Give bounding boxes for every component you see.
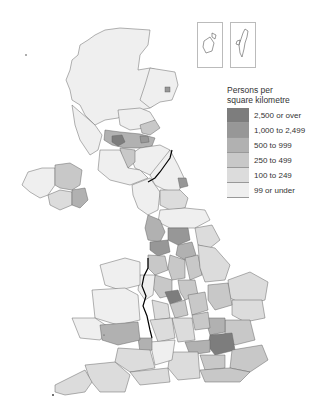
- region-mid-wales: [92, 288, 140, 325]
- legend-label: 100 to 249: [254, 171, 292, 180]
- legend-label: 500 to 999: [254, 141, 292, 150]
- region-lincolnshire: [198, 245, 230, 282]
- region-north-wales: [100, 258, 140, 290]
- legend-item: 500 to 999: [227, 138, 305, 153]
- region-aberdeen-city: [165, 87, 170, 92]
- region-tyne-wear: [178, 178, 188, 188]
- region-east-yorkshire: [195, 225, 220, 248]
- region-cambridgeshire: [208, 283, 232, 310]
- legend-swatch: [227, 108, 249, 123]
- region-edinburgh: [140, 136, 149, 143]
- region-west-yorkshire: [168, 228, 190, 245]
- region-bedfordshire: [192, 312, 210, 330]
- orkney-islands-icon: [198, 23, 222, 67]
- region-kent: [230, 345, 268, 372]
- legend-label: 99 or under: [254, 186, 295, 195]
- region-south-wales-valleys: [100, 322, 140, 345]
- legend-title: Persons per square kilometre: [227, 85, 305, 105]
- region-ni-south: [48, 190, 72, 210]
- legend-swatch: [227, 123, 249, 138]
- legend-swatch: [227, 138, 249, 153]
- region-northamptonshire: [188, 292, 208, 315]
- region-oxfordshire: [172, 318, 195, 342]
- uk-population-density-map: [0, 0, 324, 406]
- region-greater-london: [208, 333, 235, 355]
- legend-item: 1,000 to 2,499: [227, 123, 305, 138]
- region-suffolk: [232, 300, 265, 322]
- region-surrey: [200, 355, 225, 370]
- legend-item: 99 or under: [227, 183, 305, 198]
- island-dot: [25, 54, 27, 56]
- legend-swatch: [227, 183, 249, 198]
- legend-label: 250 to 499: [254, 156, 292, 165]
- legend-swatch: [227, 168, 249, 183]
- region-ni-antrim: [55, 163, 82, 190]
- region-gloucestershire: [150, 318, 175, 342]
- legend-swatch: [227, 153, 249, 168]
- island-dot: [103, 334, 104, 335]
- region-cornwall: [55, 370, 92, 395]
- region-ni-down: [72, 188, 88, 208]
- island-dot: [52, 394, 54, 396]
- legend-item: 100 to 249: [227, 168, 305, 183]
- region-cheshire: [148, 255, 168, 275]
- map-legend: Persons per square kilometre 2,500 or ov…: [227, 85, 305, 198]
- legend-title-line2: square kilometre: [227, 95, 305, 105]
- legend-title-line1: Persons per: [227, 85, 305, 95]
- region-ni-west: [22, 168, 55, 198]
- region-north-yorkshire: [158, 208, 210, 228]
- legend-label: 2,500 or over: [254, 111, 301, 120]
- region-worcestershire: [152, 300, 170, 320]
- inset-orkney: [197, 22, 223, 68]
- region-manchester: [150, 240, 170, 256]
- legend-item: 250 to 499: [227, 153, 305, 168]
- inset-shetland: [230, 22, 256, 68]
- shetland-islands-icon: [231, 23, 255, 67]
- region-durham-tyne: [160, 190, 188, 210]
- legend-label: 1,000 to 2,499: [254, 126, 305, 135]
- legend-item: 2,500 or over: [227, 108, 305, 123]
